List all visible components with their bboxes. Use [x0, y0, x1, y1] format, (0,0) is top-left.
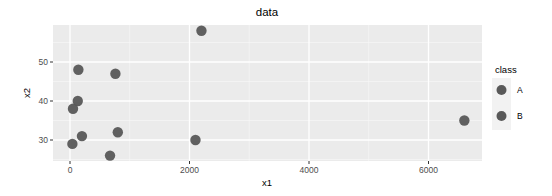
legend: class AB — [492, 64, 523, 130]
data-point — [113, 127, 123, 137]
data-point — [77, 131, 87, 141]
legend-key-point — [497, 85, 507, 95]
data-point — [68, 104, 78, 114]
x-axis: 0200040006000 — [68, 161, 439, 175]
y-tick-label: 40 — [39, 96, 49, 106]
y-axis: 304050 — [39, 57, 53, 145]
data-point — [105, 150, 115, 160]
y-tick-label: 50 — [39, 57, 49, 67]
legend-key-point — [497, 111, 507, 121]
legend-title: class — [495, 64, 517, 75]
data-point — [459, 115, 469, 125]
data-point — [73, 65, 83, 75]
data-point — [190, 135, 200, 145]
x-tick-label: 0 — [68, 165, 73, 175]
data-point — [196, 26, 206, 36]
x-tick-label: 4000 — [300, 165, 319, 175]
scatter-chart: data 0200040006000 304050 x1 x2 class AB — [0, 0, 552, 196]
legend-label-a: A — [517, 85, 523, 95]
data-point — [67, 139, 77, 149]
legend-label-b: B — [517, 111, 523, 121]
y-axis-title: x2 — [21, 88, 32, 98]
legend-keys: AB — [492, 78, 523, 130]
x-tick-label: 6000 — [419, 165, 438, 175]
chart-title: data — [256, 6, 279, 18]
x-tick-label: 2000 — [180, 165, 199, 175]
data-point — [110, 69, 120, 79]
x-axis-title: x1 — [262, 177, 272, 188]
y-tick-label: 30 — [39, 135, 49, 145]
